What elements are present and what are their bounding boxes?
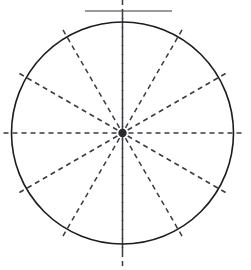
- radial-wheel-diagram: [0, 0, 251, 270]
- center-hub-dot: [118, 129, 126, 137]
- wheel-diagram-canvas: [0, 0, 251, 270]
